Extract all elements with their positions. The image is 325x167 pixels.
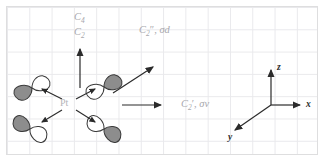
label-c2-double-prime-sigma-d: C2″, σd [139, 25, 170, 38]
orbital-upper-right [84, 71, 124, 102]
label-c4: C4 [74, 12, 85, 25]
bond-arrow-upper-left [42, 89, 62, 99]
y-axis-line [235, 105, 271, 130]
x-axis-label: x [306, 100, 311, 110]
figure-canvas: Pt C4 C2 C2″, σd C2′, σv z x y [0, 0, 325, 167]
label-sigma-d: , σd [154, 24, 170, 35]
label-c2-prime-sigma-v: C2′, σv [181, 99, 209, 112]
label-c4-base: C [74, 11, 81, 22]
bond-arrow-lower-left [42, 110, 62, 122]
orbital-lower-left [10, 113, 50, 144]
label-c2-base: C [74, 26, 81, 37]
label-c2pp-base: C [139, 24, 146, 35]
coordinate-axes [235, 70, 300, 130]
orbital-lower-right [84, 113, 124, 144]
label-c2p-base: C [181, 98, 188, 109]
label-c2-principal: C2 [74, 27, 85, 40]
orbital-upper-left [12, 72, 52, 103]
metal-center-label: Pt [60, 98, 68, 108]
z-axis-label: z [277, 63, 281, 73]
y-axis-label: y [228, 133, 232, 143]
label-c4-sub: 4 [81, 16, 85, 25]
label-c2-sub: 2 [81, 31, 85, 40]
label-sigma-v: , σv [194, 98, 209, 109]
